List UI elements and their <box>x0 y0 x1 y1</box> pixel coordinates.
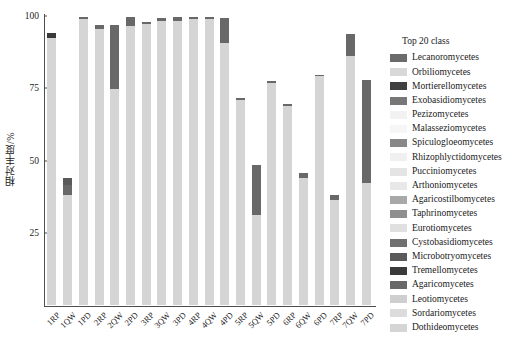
legend-item[interactable]: Cystobasidiomycetes <box>390 235 515 249</box>
legend-swatch <box>390 295 407 303</box>
bar <box>63 178 72 305</box>
bar <box>236 98 245 305</box>
bar <box>126 17 135 305</box>
legend-label: Tremellomycetes <box>412 266 478 276</box>
x-tick-label: 6PD <box>311 310 329 328</box>
bar-segment <box>299 178 308 305</box>
legend-label: Pezizomycetes <box>412 110 468 120</box>
bar-segment <box>173 21 182 305</box>
legend-item[interactable]: Dothideomycetes <box>390 321 515 335</box>
bar-segment <box>189 19 198 305</box>
bar-segment <box>362 80 371 183</box>
legend-label: Orbiliomycetes <box>412 68 471 78</box>
x-tick-label: 2PD <box>123 310 141 328</box>
legend-swatch <box>390 68 407 76</box>
legend-item[interactable]: Agaricostilbomycetes <box>390 193 515 207</box>
bar <box>157 18 166 305</box>
legend-label: Rhizophlyctidomycetes <box>412 153 502 163</box>
legend-item[interactable]: Spiculogloeomycetes <box>390 136 515 150</box>
bar <box>79 17 88 305</box>
y-tick-label: 50 <box>0 156 39 166</box>
bar <box>362 80 371 305</box>
bar <box>173 17 182 305</box>
legend-swatch <box>390 196 407 204</box>
legend-label: Sordariomycetes <box>412 309 476 319</box>
legend-label: Taphrinomycetes <box>412 209 477 219</box>
bar-segment <box>126 17 135 26</box>
legend-item[interactable]: Pezizomycetes <box>390 108 515 122</box>
legend-item[interactable]: Mortierellomycetes <box>390 79 515 93</box>
y-tick-label: 25 <box>0 228 39 238</box>
bar-segment <box>220 43 229 305</box>
bar <box>330 195 339 305</box>
legend-item[interactable]: Pucciniomycetes <box>390 165 515 179</box>
bar <box>252 165 261 305</box>
legend-label: Dothideomycetes <box>412 323 478 333</box>
bar-segment <box>315 76 324 305</box>
legend-item[interactable]: Orbiliomycetes <box>390 65 515 79</box>
legend-item[interactable]: Rhizophlyctidomycetes <box>390 150 515 164</box>
legend-label: Malasseziomycetes <box>412 124 486 134</box>
legend-item[interactable]: Exobasidiomycetes <box>390 94 515 108</box>
legend-swatch <box>390 281 407 289</box>
legend-label: Agaricomycetes <box>412 280 474 290</box>
legend-item[interactable]: Leotiomycetes <box>390 292 515 306</box>
x-axis-line <box>44 306 376 307</box>
legend-swatch <box>390 309 407 317</box>
legend-item[interactable]: Taphrinomycetes <box>390 207 515 221</box>
legend-swatch <box>390 324 407 332</box>
bar-segment <box>283 106 292 305</box>
bar <box>205 17 214 305</box>
legend-swatch <box>390 111 407 119</box>
legend-label: Spiculogloeomycetes <box>412 138 493 148</box>
bar <box>47 33 56 305</box>
bar-segment <box>330 200 339 305</box>
legend-label: Leotiomycetes <box>412 295 468 305</box>
legend-label: Mortierellomycetes <box>412 82 486 92</box>
bar-segment <box>252 165 261 216</box>
legend-item[interactable]: Sordariomycetes <box>390 306 515 320</box>
bar <box>267 81 276 305</box>
bar-segment <box>236 100 245 305</box>
legend-swatch <box>390 54 407 62</box>
legend-swatch <box>390 253 407 261</box>
legend-swatch <box>390 239 407 247</box>
legend-item[interactable]: Agaricomycetes <box>390 278 515 292</box>
legend: Top 20 class LecanoromycetesOrbiliomycet… <box>390 36 515 335</box>
bar-segment <box>47 38 56 305</box>
bar-segment <box>346 56 355 305</box>
bar-segment <box>157 21 166 305</box>
x-tick-label: 3QW <box>152 310 172 330</box>
x-tick-label: 5PD <box>264 310 282 328</box>
legend-title: Top 20 class <box>402 36 515 46</box>
x-tick-label: 4PD <box>217 310 235 328</box>
x-tick-label: 7PD <box>358 310 376 328</box>
x-tick-label: 3PD <box>170 310 188 328</box>
legend-label: Exobasidiomycetes <box>412 96 486 106</box>
legend-item[interactable]: Arthoniomycetes <box>390 179 515 193</box>
legend-label: Eurotiomycetes <box>412 224 472 234</box>
bar <box>283 104 292 305</box>
legend-item[interactable]: Malasseziomycetes <box>390 122 515 136</box>
bar <box>220 18 229 305</box>
legend-swatch <box>390 97 407 105</box>
legend-item[interactable]: Eurotiomycetes <box>390 221 515 235</box>
legend-item[interactable]: Tremellomycetes <box>390 264 515 278</box>
legend-swatch <box>390 153 407 161</box>
legend-label: Agaricostilbomycetes <box>412 195 495 205</box>
bar-segment <box>63 178 72 185</box>
legend-swatch <box>390 125 407 133</box>
legend-label: Lecanoromycetes <box>412 53 479 63</box>
legend-swatch <box>390 224 407 232</box>
legend-item[interactable]: Lecanoromycetes <box>390 51 515 65</box>
legend-label: Arthoniomycetes <box>412 181 477 191</box>
bar-segment <box>79 19 88 305</box>
legend-swatch <box>390 139 407 147</box>
fungal-class-abundance-chart: 相对丰度/% 255075100 1RP1QW1PD2RP2QW2PD3RP3Q… <box>0 0 517 356</box>
legend-item[interactable]: Microbotryomycetes <box>390 250 515 264</box>
legend-swatch <box>390 182 407 190</box>
bar <box>95 25 104 305</box>
legend-label: Pucciniomycetes <box>412 167 476 177</box>
legend-label: Cystobasidiomycetes <box>412 238 493 248</box>
bar <box>110 25 119 305</box>
